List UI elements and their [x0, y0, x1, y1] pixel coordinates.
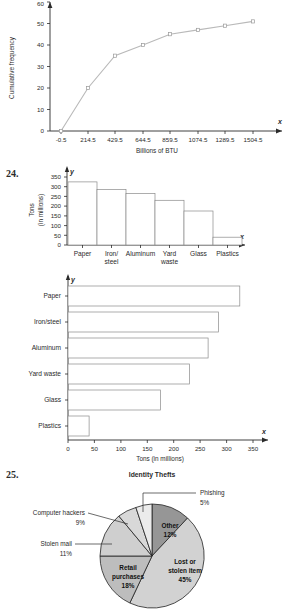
y-tick-label: 0: [41, 127, 45, 134]
cat-label-paper: Paper: [74, 250, 92, 258]
bar-aluminum: [68, 338, 208, 358]
category-labels: Paper Iron/ steel Aluminum Yard waste Gl…: [74, 250, 240, 265]
y-tick-label: 250: [51, 193, 62, 200]
bar-aluminum: [126, 194, 155, 246]
y-tick-label: 300: [51, 183, 62, 190]
bar-paper: [68, 286, 240, 306]
pie-pct-retail: 18%: [122, 582, 135, 589]
bar-yard-waste: [68, 364, 190, 384]
bars: [68, 182, 242, 245]
pie-label-retail-line1: Retail: [119, 564, 137, 571]
bar-glass: [184, 211, 213, 245]
bars: [68, 286, 240, 436]
x-tick-label: 1289.5: [216, 136, 235, 143]
item-number-25: 25.: [6, 469, 19, 480]
pie-label-lost-line2: stolen item: [168, 567, 202, 574]
y-axis-arrow: [65, 166, 69, 172]
cat-label-paper: Paper: [43, 292, 61, 300]
x-tick-label: 429.5: [107, 136, 123, 143]
bar-paper: [68, 182, 97, 245]
category-labels: Paper Iron/steel Aluminum Yard waste Gla…: [29, 292, 62, 429]
pie-svg: 25. Identity Thefts Other 12% Lost or st…: [0, 460, 289, 613]
ogive-svg: x 0 10 20 30 40 50 60: [0, 0, 289, 160]
pie-label-stolen-mail: Stolen mail: [40, 540, 72, 547]
y-tick-label: 40: [37, 41, 44, 48]
y-tick-label: 10: [37, 106, 44, 113]
x-tick-label: 200: [169, 445, 180, 452]
horizontal-bar-chart: y x 0 50 100 150 200 250 300 350: [0, 268, 289, 463]
y-tick-label: 30: [37, 63, 44, 70]
vertical-bar-chart: 24. y x 0 50 100 150 200 250 300 350: [0, 160, 289, 270]
y-tick-label: 0: [58, 241, 62, 248]
y-axis-title-line1: Tons: [28, 203, 35, 217]
x-ticks: -0.5 214.5 429.5 644.5 859.5 1074.5 1289…: [56, 131, 263, 143]
item-number-24: 24.: [6, 168, 19, 179]
cat-label-plastics: Plastics: [216, 250, 239, 257]
pie-label-lost-line1: Lost or: [174, 558, 196, 565]
x-tick-label: 644.5: [135, 136, 151, 143]
pie-pct-stolen-mail: 11%: [60, 550, 73, 557]
y-tick-label: 200: [51, 202, 62, 209]
bar-iron-steel: [97, 190, 126, 245]
pie-label-retail-line2: purchases: [112, 573, 144, 581]
pie-chart-title: Identity Thefts: [129, 471, 176, 479]
x-axis-arrow: [262, 438, 268, 443]
x-ticks: 0 50 100 150 200 250 300 350: [66, 440, 258, 452]
cat-label-glass: Glass: [190, 250, 208, 257]
x-axis-variable: x: [261, 428, 267, 435]
x-tick-label: 0: [66, 445, 70, 452]
cat-label-aluminum: Aluminum: [126, 250, 156, 257]
cat-label-waste: waste: [160, 258, 179, 265]
y-axis-arrow: [66, 274, 70, 280]
bar-glass: [68, 390, 161, 410]
y-ticks: 0 10 20 30 40 50 60: [37, 0, 50, 134]
pie-label-computer-hackers: Computer hackers: [33, 509, 85, 517]
x-axis-title: Billions of BTU: [136, 147, 178, 154]
ogive-points: [59, 20, 254, 133]
y-axis-title-line2: (in millions): [37, 194, 45, 226]
pie-pct-lost: 45%: [179, 576, 192, 583]
x-tick-label: 859.5: [162, 136, 178, 143]
y-tick-label: 100: [51, 222, 62, 229]
cat-label-steel: steel: [105, 258, 119, 265]
x-tick-label: 100: [116, 445, 127, 452]
identity-thefts-pie-chart: 25. Identity Thefts Other 12% Lost or st…: [0, 460, 289, 613]
cat-label-yard: Yard: [163, 250, 177, 257]
y-tick-label: 350: [51, 173, 62, 180]
y-tick-label: 20: [37, 84, 44, 91]
x-tick-label: 250: [195, 445, 206, 452]
cat-label-iron-steel: Iron/steel: [34, 318, 62, 325]
bar-yard-waste: [155, 200, 184, 245]
y-ticks: 0 50 100 150 200 250 300 350: [51, 173, 67, 248]
cat-label-glass: Glass: [44, 396, 62, 403]
bar-iron-steel: [68, 312, 219, 332]
bar-plastics: [213, 237, 242, 245]
y-axis-variable: y: [69, 168, 75, 176]
cumulative-frequency-chart: x 0 10 20 30 40 50 60: [0, 0, 289, 160]
y-axis-title: Cumulative frequency: [8, 36, 16, 99]
y-axis-arrow: [48, 2, 53, 8]
y-tick-label: 150: [51, 212, 62, 219]
pie-pct-phishing: 5%: [200, 499, 210, 506]
pie-pct-computer-hackers: 9%: [76, 519, 86, 526]
x-tick-label: -0.5: [56, 136, 67, 143]
x-tick-label: 1074.5: [189, 136, 208, 143]
y-tick-label: 50: [37, 20, 44, 27]
y-tick-label: 50: [54, 232, 61, 239]
x-tick-label: 350: [248, 445, 259, 452]
x-tick-label: 50: [91, 445, 98, 452]
pie-pct-other: 12%: [164, 531, 177, 538]
x-axis-arrow: [276, 129, 282, 134]
ogive-line: [61, 21, 253, 131]
cat-label-aluminum: Aluminum: [32, 344, 62, 351]
bar-plastics: [68, 416, 89, 436]
vertical-bar-svg: 24. y x 0 50 100 150 200 250 300 350: [0, 160, 289, 270]
x-tick-label: 150: [142, 445, 153, 452]
cat-label-plastics: Plastics: [38, 422, 61, 429]
x-tick-label: 1504.5: [244, 136, 263, 143]
pie-label-phishing: Phishing: [200, 489, 225, 497]
pie-label-other: Other: [161, 522, 179, 529]
horizontal-bar-svg: y x 0 50 100 150 200 250 300 350: [0, 268, 289, 463]
x-axis-variable: x: [277, 118, 283, 125]
cat-label-iron: Iron/: [105, 250, 118, 257]
